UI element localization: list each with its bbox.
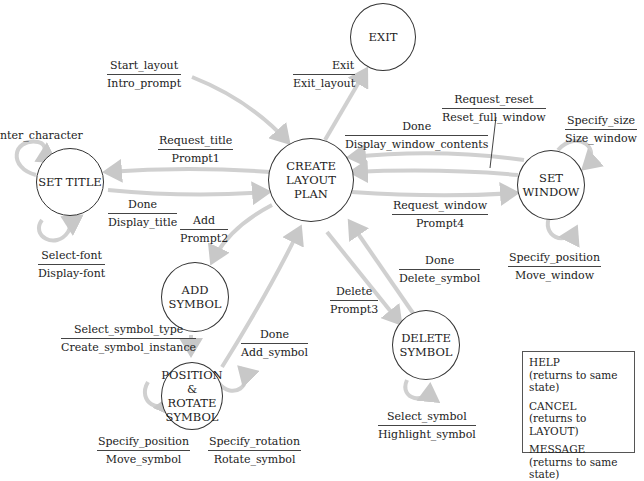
- label-specify-size: Specify_size Size_window: [565, 113, 637, 146]
- label-done-add: Done Add_symbol: [241, 327, 308, 360]
- label-select-font: Select-font Display-font: [38, 248, 105, 281]
- label-enter-character: nter_character: [0, 127, 83, 143]
- state-add-symbol-line2: SYMBOL: [169, 297, 222, 311]
- state-create-line2: LAYOUT: [286, 173, 336, 187]
- label-request-window: Request_window Prompt4: [392, 198, 488, 231]
- label-specify-rotation: Specify_rotation Rotate_symbol: [208, 434, 301, 467]
- state-exit-label: EXIT: [369, 30, 398, 44]
- label-request-title: Request_title Prompt1: [158, 133, 233, 166]
- legend-item-message: MESSAGE (returns to same state): [529, 443, 628, 481]
- state-create-layout-plan: CREATE LAYOUT PLAN: [268, 138, 354, 222]
- state-set-window-line1: SET: [523, 171, 580, 185]
- state-position-rotate-symbol: POSITION & ROTATE SYMBOL: [161, 362, 223, 430]
- label-done-title: Done Display_title: [108, 197, 177, 230]
- state-create-line3: PLAN: [286, 187, 336, 201]
- state-create-line1: CREATE: [286, 159, 336, 173]
- state-delete-symbol: DELETE SYMBOL: [392, 310, 460, 380]
- legend-item-help: HELP (returns to same state): [529, 356, 628, 394]
- label-add: Add Prompt2: [180, 213, 228, 246]
- state-position-line2: & ROTATE: [161, 382, 222, 410]
- state-delete-line1: DELETE: [400, 331, 453, 345]
- state-position-line1: POSITION: [161, 368, 222, 382]
- state-set-window-line2: WINDOW: [523, 185, 580, 199]
- label-delete: Delete Prompt3: [330, 284, 378, 317]
- state-set-title: SET TITLE: [36, 148, 104, 216]
- state-set-title-label: SET TITLE: [38, 175, 102, 189]
- legend-box: HELP (returns to same state) CANCEL (ret…: [522, 351, 635, 453]
- state-delete-line2: SYMBOL: [400, 345, 453, 359]
- label-done-delete: Done Delete_symbol: [399, 253, 480, 286]
- label-done-window: Done Display_window_contents: [345, 119, 488, 152]
- state-set-window: SET WINDOW: [517, 150, 585, 220]
- legend-item-cancel: CANCEL (returns to LAYOUT): [529, 400, 628, 438]
- state-position-line3: SYMBOL: [161, 410, 222, 424]
- label-exit: Exit Exit_layout: [293, 58, 355, 91]
- label-select-symbol-type: Select_symbol_type Create_symbol_instanc…: [61, 322, 196, 355]
- label-specify-position-window: Specify_position Move_window: [508, 250, 601, 283]
- label-specify-position-symbol: Specify_position Move_symbol: [97, 434, 190, 467]
- state-exit: EXIT: [350, 3, 416, 71]
- label-start-layout: Start_layout Intro_prompt: [107, 58, 181, 91]
- label-select-symbol: Select_symbol Highlight_symbol: [378, 409, 476, 442]
- state-add-symbol-line1: ADD: [169, 283, 222, 297]
